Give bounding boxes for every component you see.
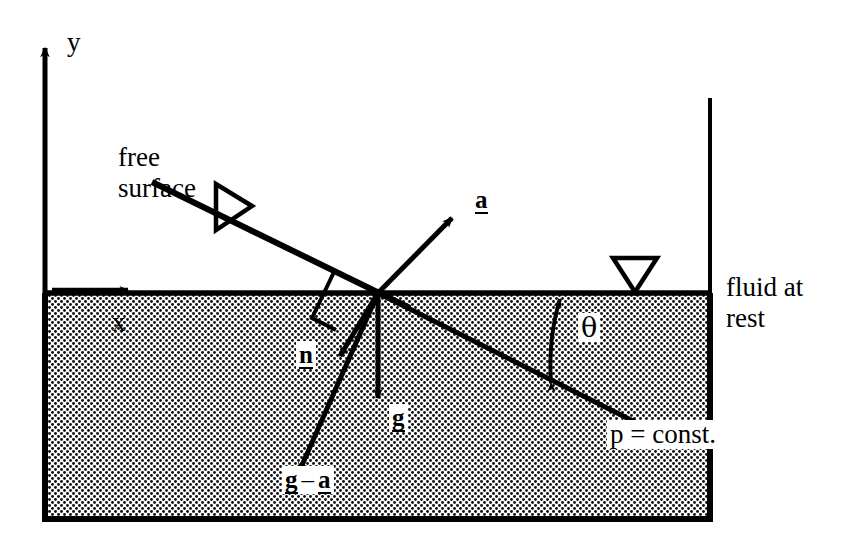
vector-a-label-text: a (475, 187, 488, 214)
vector-a-label: a (472, 186, 491, 214)
vector-n-label: n (296, 341, 316, 369)
x-axis-label: x (112, 308, 126, 337)
vector-g-minus-a-label: g–a (282, 466, 334, 494)
vector-g-label-text: g (392, 405, 405, 432)
p-const-label: p = const. (607, 420, 719, 449)
vector-g-minus-a-g: g (285, 467, 298, 494)
theta-label: θ (578, 313, 600, 342)
free-surface-label-line2: surface (118, 173, 196, 204)
y-axis-label: y (67, 28, 81, 57)
free-surface-label-line1: free (118, 142, 196, 173)
vector-n-label-text: n (299, 342, 313, 369)
fluid-at-rest-label: fluid at rest (726, 272, 803, 334)
fluid-at-rest-line2: rest (726, 303, 803, 334)
vector-a-arrow (378, 218, 452, 293)
vector-g-minus-a-operator: – (298, 466, 319, 493)
diagram-svg (0, 0, 843, 555)
fluid-at-rest-line1: fluid at (726, 272, 803, 303)
vector-g-label: g (389, 404, 408, 432)
free-surface-label: free surface (118, 142, 196, 204)
vector-g-minus-a-a: a (318, 467, 331, 494)
rest-surface-marker-icon (613, 258, 657, 292)
diagram-canvas: y x free surface fluid at rest p = const… (0, 0, 843, 555)
